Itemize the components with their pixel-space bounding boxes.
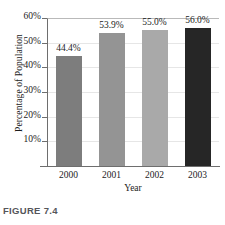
bar: [185, 28, 211, 166]
bar-chart: Percentage of Population 10%20%30%40%50%…: [0, 0, 225, 196]
bar: [142, 30, 168, 166]
x-axis-tick-label: 2000: [45, 170, 93, 180]
bar-value-label: 44.4%: [45, 43, 93, 53]
x-axis-title: Year: [47, 183, 219, 193]
bar: [56, 56, 82, 166]
x-axis-line: [40, 166, 220, 167]
bar-value-label: 53.9%: [88, 20, 136, 30]
y-axis-tick-label: 10%: [1, 134, 41, 144]
y-axis-tick-label: 20%: [1, 110, 41, 120]
y-axis-tick-label: 60%: [1, 11, 41, 21]
x-axis-tick-label: 2001: [88, 170, 136, 180]
y-axis-tick-label: 30%: [1, 85, 41, 95]
x-axis-tick-label: 2003: [174, 170, 222, 180]
y-axis-tick-label: 40%: [1, 60, 41, 70]
x-axis-tick-label: 2002: [131, 170, 179, 180]
figure-caption: FIGURE 7.4: [3, 205, 58, 216]
bar: [99, 33, 125, 166]
bar-value-label: 55.0%: [131, 17, 179, 27]
bars-group: [47, 18, 219, 166]
y-axis-tick-label: 50%: [1, 36, 41, 46]
bar-value-label: 56.0%: [174, 15, 222, 25]
figure-7-4: Percentage of Population 10%20%30%40%50%…: [0, 0, 225, 225]
